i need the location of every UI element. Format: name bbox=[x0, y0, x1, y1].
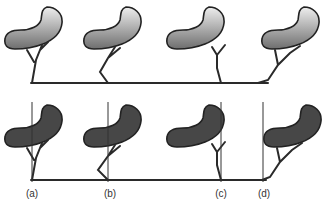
vertical-lines bbox=[32, 102, 263, 182]
bottom-row bbox=[5, 105, 321, 147]
tree-diagram bbox=[0, 0, 324, 210]
label-d: (d) bbox=[258, 188, 270, 199]
label-c: (c) bbox=[215, 188, 227, 199]
label-b: (b) bbox=[104, 188, 116, 199]
top-row bbox=[5, 7, 319, 49]
label-a: (a) bbox=[26, 188, 38, 199]
figure: (a) (b) (c) (d) bbox=[0, 0, 324, 210]
